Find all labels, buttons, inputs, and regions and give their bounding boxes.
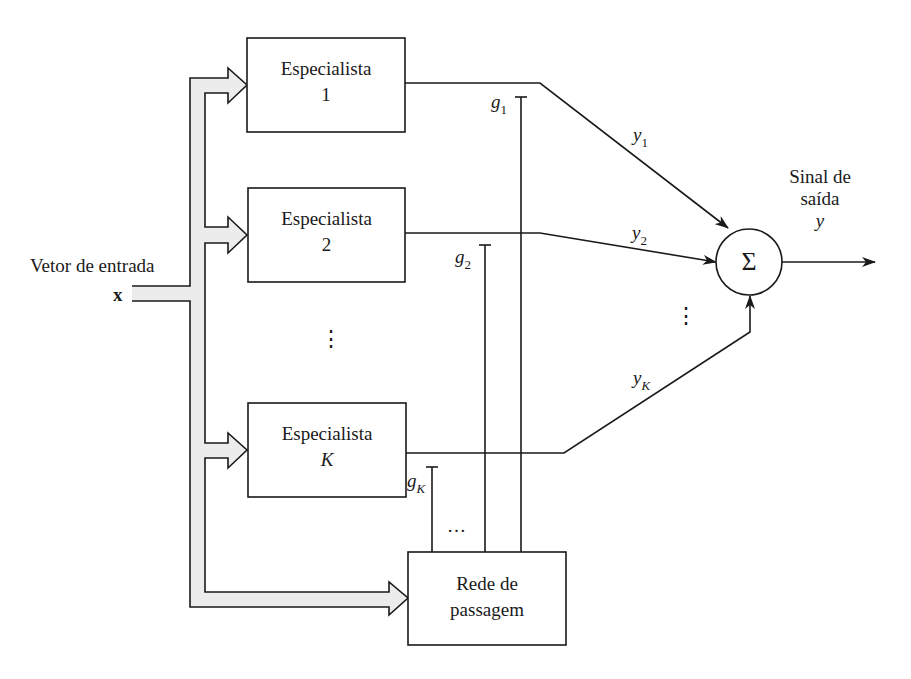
output-sub-2: 2: [640, 233, 647, 248]
gate-sub-k: K: [417, 481, 426, 496]
output-signal-label: Sinal de saída y: [770, 166, 870, 232]
expert-title-2: Especialista: [248, 206, 405, 232]
gate-sub-1: 1: [501, 102, 508, 117]
output-signal-line2: saída: [770, 188, 870, 210]
input-vector-symbol: x: [113, 284, 123, 306]
gating-network-line2: passagem: [408, 597, 566, 623]
experts-ellipsis: ⋮: [320, 328, 342, 350]
expert-title-1: Especialista: [247, 56, 405, 82]
output-signal-line1: Sinal de: [770, 166, 870, 188]
gate-label-1: g1: [491, 91, 507, 115]
output-label-1: y1: [633, 124, 648, 148]
gate-var-2: g: [455, 246, 465, 267]
expert-label-k: Especialista K: [248, 421, 406, 473]
output-label-k: yK: [633, 367, 650, 391]
output-sub-1: 1: [641, 135, 648, 150]
gate-label-k: gK: [407, 470, 425, 494]
output-sub-k: K: [641, 378, 650, 393]
gating-network-label: Rede de passagem: [408, 571, 566, 623]
output-line-k: [406, 296, 750, 453]
expert-index-k: K: [248, 447, 406, 473]
summation-symbol: Σ: [716, 248, 782, 276]
output-line-2: [405, 233, 716, 262]
gate-lines: [426, 97, 527, 552]
input-vector-label: Vetor de entrada: [30, 255, 155, 277]
expert-index-1: 1: [247, 82, 405, 108]
expert-label-1: Especialista 1: [247, 56, 405, 108]
output-line-1: [405, 83, 728, 228]
gating-network-line1: Rede de: [408, 571, 566, 597]
outputs-ellipsis: ⋮: [675, 305, 697, 327]
expert-index-2: 2: [248, 232, 405, 258]
output-label-2: y2: [632, 222, 647, 246]
gate-var-k: g: [407, 470, 417, 491]
expert-title-k: Especialista: [248, 421, 406, 447]
input-bus: [132, 68, 408, 615]
gate-var-1: g: [491, 91, 501, 112]
gate-label-2: g2: [455, 246, 471, 270]
gates-ellipsis: …: [447, 515, 466, 537]
gate-sub-2: 2: [465, 257, 472, 272]
output-signal-symbol: y: [770, 210, 870, 232]
expert-label-2: Especialista 2: [248, 206, 405, 258]
